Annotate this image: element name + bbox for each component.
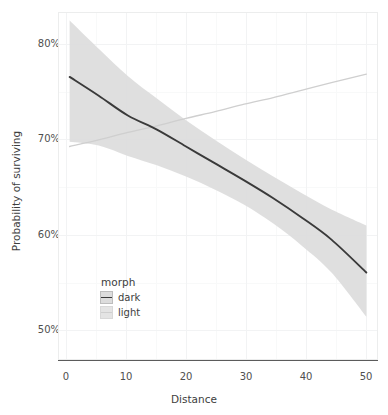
y-tick-label-50: 50% xyxy=(16,324,60,335)
chart-figure: 80% 70% 60% 50% 0 10 2 xyxy=(0,0,388,415)
y-tick-label-70: 70% xyxy=(16,133,60,144)
legend-key-dark-icon xyxy=(100,291,113,304)
x-tick-label-20: 20 xyxy=(166,371,206,382)
legend-item-light[interactable]: light xyxy=(100,305,140,320)
x-tick-label-10: 10 xyxy=(106,371,146,382)
legend-label-light: light xyxy=(118,306,140,319)
x-tick-label-0: 0 xyxy=(46,371,86,382)
x-tick-label-40: 40 xyxy=(286,371,326,382)
legend: morph dark light xyxy=(100,276,140,320)
legend-label-dark: dark xyxy=(118,291,140,304)
y-axis-title: Probability of surviving xyxy=(10,91,22,291)
x-axis-title: Distance xyxy=(0,393,388,405)
x-tick-label-50: 50 xyxy=(346,371,386,382)
x-axis-line xyxy=(58,360,378,361)
legend-item-dark[interactable]: dark xyxy=(100,290,140,305)
legend-title: morph xyxy=(100,276,140,288)
x-tick-label-30: 30 xyxy=(226,371,266,382)
legend-key-light-icon xyxy=(100,306,113,319)
confidence-ribbon-dark xyxy=(70,20,367,316)
y-tick-label-60: 60% xyxy=(16,229,60,240)
y-tick-label-80: 80% xyxy=(16,38,60,49)
